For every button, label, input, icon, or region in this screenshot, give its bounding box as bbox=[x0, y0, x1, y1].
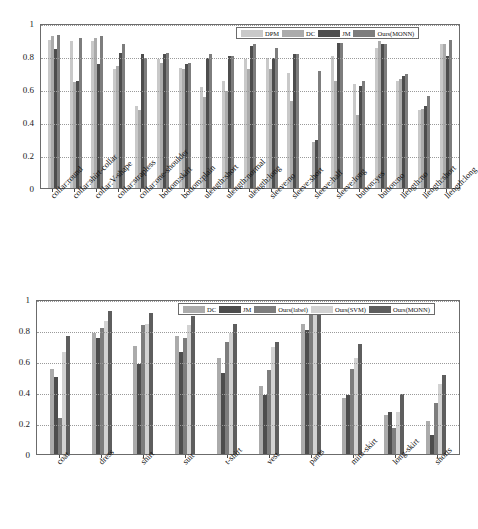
legend-item: DC bbox=[183, 306, 216, 313]
y-tick-label: 1 bbox=[4, 296, 30, 305]
bar-oursmonn bbox=[296, 54, 299, 188]
y-tick-label: 0.8 bbox=[8, 53, 34, 62]
bar-group bbox=[353, 25, 365, 188]
legend-label: Ours(SVM) bbox=[335, 306, 366, 313]
bar-group bbox=[175, 301, 195, 454]
bar-oursmonn bbox=[340, 43, 343, 188]
legend-label: DPM bbox=[265, 30, 279, 37]
y-tick-label: 0.6 bbox=[4, 358, 30, 367]
bar-group bbox=[217, 301, 237, 454]
bar-group bbox=[50, 301, 70, 454]
bar-group bbox=[384, 301, 404, 454]
bar-oursmonn bbox=[149, 313, 153, 454]
gridline bbox=[37, 332, 459, 333]
bar-group bbox=[331, 25, 343, 188]
y-tick-label: 0.6 bbox=[8, 86, 34, 95]
gridline bbox=[41, 91, 459, 92]
bar-group bbox=[426, 301, 446, 454]
legend-item: Ours(label) bbox=[254, 306, 308, 313]
bar-group bbox=[48, 25, 60, 188]
gridline bbox=[37, 363, 459, 364]
legend-swatch bbox=[369, 306, 391, 313]
gridline bbox=[37, 301, 459, 302]
legend-swatch bbox=[353, 30, 375, 37]
bar-group bbox=[375, 25, 387, 188]
gridline bbox=[37, 394, 459, 395]
legend-swatch bbox=[241, 30, 263, 37]
bar-oursmonn bbox=[442, 375, 446, 454]
legend-label: DC bbox=[306, 30, 315, 37]
legend-swatch bbox=[318, 30, 340, 37]
chart-1-legend: DPMDCJMOurs(MONN) bbox=[236, 27, 419, 39]
legend-label: JM bbox=[342, 30, 350, 37]
gridline bbox=[37, 425, 459, 426]
legend-label: Ours(MONN) bbox=[393, 306, 430, 313]
legend-item: Ours(MONN) bbox=[369, 306, 430, 313]
y-tick-label: 0.2 bbox=[8, 152, 34, 161]
bar-group bbox=[309, 25, 321, 188]
legend-swatch bbox=[254, 306, 276, 313]
chart-2-clothing-category-accuracy: 00.20.40.60.81 coatdressshirtsuitt-shirt… bbox=[0, 282, 468, 529]
gridline bbox=[41, 157, 459, 158]
legend-item: DPM bbox=[241, 30, 279, 37]
y-tick-label: 0.4 bbox=[4, 389, 30, 398]
gridline bbox=[41, 58, 459, 59]
y-tick-label: 0 bbox=[4, 451, 30, 460]
bar-oursmonn bbox=[275, 342, 279, 454]
gridline bbox=[41, 124, 459, 125]
bar-group bbox=[342, 301, 362, 454]
bar-oursmonn bbox=[191, 316, 195, 454]
legend-item: JM bbox=[219, 306, 251, 313]
bar-group bbox=[396, 25, 408, 188]
bar-oursmonn bbox=[233, 324, 237, 454]
y-tick-label: 1 bbox=[8, 20, 34, 29]
bar-group bbox=[418, 25, 430, 188]
chart-2-legend: DCJMOurs(label)Ours(SVM)Ours(MONN) bbox=[178, 303, 435, 315]
chart-2-bars bbox=[37, 301, 459, 454]
bar-group bbox=[179, 25, 191, 188]
bar-group bbox=[133, 301, 153, 454]
bar-group bbox=[259, 301, 279, 454]
chart-2-plot-area bbox=[36, 300, 460, 455]
chart-1-attribute-accuracy: 00.20.40.60.81 collar:roundcollar:shirt-… bbox=[0, 0, 468, 272]
legend-item: JM bbox=[318, 30, 350, 37]
legend-item: Ours(MONN) bbox=[353, 30, 414, 37]
bar-group bbox=[70, 25, 82, 188]
y-tick-label: 0 bbox=[8, 185, 34, 194]
y-tick-label: 0.8 bbox=[4, 327, 30, 336]
bar-oursmonn bbox=[384, 44, 387, 188]
legend-label: DC bbox=[207, 306, 216, 313]
legend-swatch bbox=[219, 306, 241, 313]
bar-group bbox=[301, 301, 321, 454]
y-tick-label: 0.2 bbox=[4, 420, 30, 429]
legend-label: Ours(MONN) bbox=[377, 30, 414, 37]
bar-oursmonn bbox=[66, 336, 70, 454]
y-tick-label: 0.4 bbox=[8, 119, 34, 128]
bar-group bbox=[287, 25, 299, 188]
legend-label: JM bbox=[243, 306, 251, 313]
legend-item: Ours(SVM) bbox=[311, 306, 366, 313]
bar-group bbox=[92, 301, 112, 454]
legend-item: DC bbox=[282, 30, 315, 37]
legend-swatch bbox=[282, 30, 304, 37]
legend-label: Ours(label) bbox=[278, 306, 308, 313]
bar-oursmonn bbox=[358, 344, 362, 454]
legend-swatch bbox=[311, 306, 333, 313]
legend-swatch bbox=[183, 306, 205, 313]
gridline bbox=[41, 25, 459, 26]
